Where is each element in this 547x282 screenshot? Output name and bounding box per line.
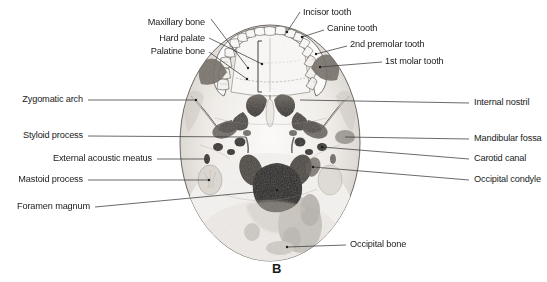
label-styloid-process: Styloid process [23, 130, 83, 141]
label-foramen-magnum: Foramen magnum [17, 201, 90, 212]
label-maxillary-bone: Maxillary bone [148, 17, 205, 28]
label-external-acoustic-meatus: External acoustic meatus [53, 153, 152, 164]
incisor-teeth [254, 26, 286, 35]
label-palatine-bone: Palatine bone [151, 46, 205, 57]
leader-canine-tooth [302, 30, 324, 37]
label-occipital-condyle: Occipital condyle [474, 174, 541, 185]
figure-caption: B [272, 261, 282, 276]
label-canine-tooth: Canine tooth [327, 23, 377, 34]
label-mandibular-fossa: Mandibular fossa [474, 133, 542, 144]
label-hard-palate: Hard palate [159, 33, 205, 44]
skull-inferior-view-artwork [0, 0, 547, 282]
leader-mandibular-fossa [345, 137, 469, 139]
label-first-molar-tooth: 1st molar tooth [385, 56, 444, 67]
anatomy-figure: Maxillary bone Hard palate Palatine bone… [0, 0, 547, 282]
label-zygomatic-arch: Zygomatic arch [22, 94, 83, 105]
label-carotid-canal: Carotid canal [474, 153, 526, 164]
label-internal-nostril: Internal nostril [474, 97, 529, 108]
label-mastoid-process: Mastoid process [18, 174, 83, 185]
label-second-premolar-tooth: 2nd premolar tooth [350, 39, 424, 50]
label-occipital-bone: Occipital bone [350, 239, 406, 250]
skull-illustration [180, 25, 360, 277]
label-incisor-tooth: Incisor tooth [303, 7, 351, 18]
